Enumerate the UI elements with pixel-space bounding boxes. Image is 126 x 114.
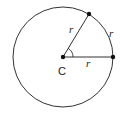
arc-label: r (109, 27, 114, 39)
center-label: C (58, 65, 66, 77)
angle-arc (68, 48, 73, 57)
top-point (87, 12, 91, 16)
right-point (111, 55, 115, 59)
radius-label-horizontal: r (86, 57, 91, 69)
center-point (61, 55, 65, 59)
circle-diagram: C r r r (0, 0, 126, 114)
angled-radius (63, 14, 89, 57)
radius-label-angled: r (69, 23, 74, 35)
